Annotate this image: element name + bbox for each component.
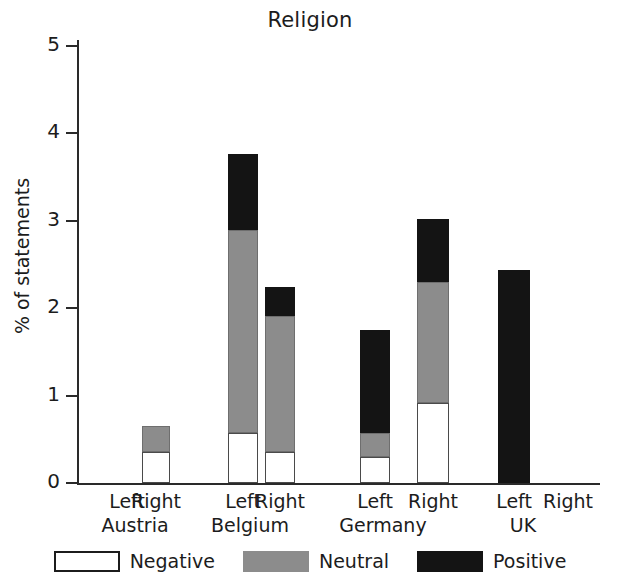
x-group-label-germany: Germany: [323, 514, 443, 536]
bar-segment-negative[interactable]: [417, 403, 449, 483]
legend-swatch-neutral: [243, 551, 309, 572]
bar-segment-positive[interactable]: [265, 287, 295, 316]
x-side-label-austria-right: Right: [126, 490, 186, 512]
legend-item-negative[interactable]: Negative: [54, 550, 215, 572]
x-side-label-germany-right: Right: [403, 490, 463, 512]
x-side-label-uk-left: Left: [484, 490, 544, 512]
y-tick-label: 0: [30, 471, 60, 491]
legend-label-negative: Negative: [130, 550, 215, 572]
bar-segment-neutral[interactable]: [265, 316, 295, 451]
y-tick-label: 5: [30, 34, 60, 54]
bar-germany-left[interactable]: [360, 46, 390, 483]
y-tick-label: 4: [30, 121, 60, 141]
bar-segment-neutral[interactable]: [142, 426, 170, 452]
x-side-label-germany-left: Left: [345, 490, 405, 512]
bar-segment-positive[interactable]: [228, 154, 258, 230]
bar-segment-neutral[interactable]: [417, 282, 449, 403]
bar-segment-negative[interactable]: [142, 452, 170, 483]
bar-segment-negative[interactable]: [265, 452, 295, 483]
x-group-label-belgium: Belgium: [190, 514, 310, 536]
y-axis-label: % of statements: [11, 136, 33, 376]
bar-segment-negative[interactable]: [360, 457, 390, 483]
bar-belgium-left[interactable]: [228, 46, 258, 483]
bar-segment-positive[interactable]: [498, 270, 530, 483]
legend-swatch-negative: [54, 551, 120, 572]
legend-item-neutral[interactable]: Neutral: [243, 550, 389, 572]
y-tick-label: 1: [30, 384, 60, 404]
y-tick-label: 2: [30, 296, 60, 316]
x-group-label-austria: Austria: [75, 514, 195, 536]
legend-label-positive: Positive: [493, 550, 566, 572]
bar-uk-left[interactable]: [498, 46, 530, 483]
chart-container: Religion % of statements 012345 LeftRigh…: [0, 0, 620, 582]
bar-segment-negative[interactable]: [228, 433, 258, 483]
y-tick-label: 3: [30, 209, 60, 229]
bar-segment-positive[interactable]: [417, 219, 449, 282]
legend-label-neutral: Neutral: [319, 550, 389, 572]
bar-segment-neutral[interactable]: [360, 433, 390, 457]
chart-title: Religion: [0, 8, 620, 32]
bar-segment-neutral[interactable]: [228, 230, 258, 433]
bar-segment-positive[interactable]: [360, 330, 390, 433]
x-axis-line: [77, 483, 600, 485]
legend-swatch-positive: [417, 551, 483, 572]
legend-item-positive[interactable]: Positive: [417, 550, 566, 572]
bar-germany-right[interactable]: [417, 46, 449, 483]
x-side-label-belgium-right: Right: [250, 490, 310, 512]
x-group-label-uk: UK: [463, 514, 583, 536]
x-side-label-uk-right: Right: [538, 490, 598, 512]
chart-legend: NegativeNeutralPositive: [0, 550, 620, 572]
bar-belgium-right[interactable]: [265, 46, 295, 483]
plot-area: [77, 46, 600, 483]
bar-austria-right[interactable]: [142, 46, 170, 483]
